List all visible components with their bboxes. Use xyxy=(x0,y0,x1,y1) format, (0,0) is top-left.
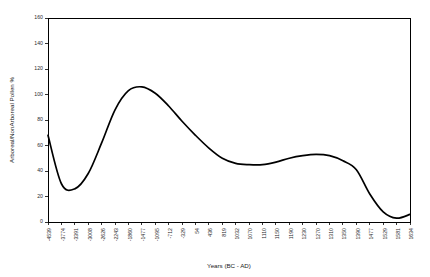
y-axis-tick-label: 0 xyxy=(40,218,43,224)
x-axis-tick-label: -2626 xyxy=(100,228,106,241)
x-axis-tick-label: -1477 xyxy=(140,228,146,241)
x-axis-tick-label: -3391 xyxy=(73,228,79,241)
x-axis-tick-label: 1110 xyxy=(261,228,267,239)
x-axis-tick-label: 1190 xyxy=(288,228,294,239)
y-axis-tick-label: 100 xyxy=(34,91,43,97)
y-axis-tick-label: 60 xyxy=(37,142,43,148)
x-axis-tick-label: 1070 xyxy=(247,228,253,240)
x-axis-tick-label: -712 xyxy=(167,228,173,238)
y-axis-tick-label: 40 xyxy=(37,167,43,173)
y-axis-tick-label: 20 xyxy=(37,193,43,199)
x-axis-tick-label: 54 xyxy=(194,228,200,234)
y-axis-tick-label: 160 xyxy=(34,14,43,20)
x-axis-tick-label: 1581 xyxy=(395,228,401,240)
x-axis-tick-label: 436 xyxy=(207,228,213,237)
chart-canvas: 020406080100120140160 -4539-3774-3391-30… xyxy=(0,0,430,277)
x-axis-tick-label: 1270 xyxy=(315,228,321,240)
x-axis-tick-label: 1477 xyxy=(368,228,374,240)
plot-frame xyxy=(48,18,410,222)
x-axis-tick-label: -1860 xyxy=(127,228,133,241)
x-axis-tick-label: -3774 xyxy=(60,228,66,241)
x-axis-tick-label: -329 xyxy=(180,228,186,238)
y-axis-tick-label: 80 xyxy=(37,116,43,122)
x-axis-tick-label: -3008 xyxy=(87,228,93,241)
x-axis-tick-label: 1390 xyxy=(355,228,361,240)
series-line-pollen xyxy=(48,87,410,218)
y-axis-tick-label: 120 xyxy=(34,65,43,71)
y-axis-title: Arboreal/NonArboreal Pollen % xyxy=(8,77,15,163)
pollen-line-chart: 020406080100120140160 -4539-3774-3391-30… xyxy=(0,0,430,277)
x-axis-tick-label: 1310 xyxy=(328,228,334,240)
x-axis-title: Years (BC - AD) xyxy=(207,262,251,269)
x-axis-tick-label: 1634 xyxy=(408,228,414,240)
x-axis-tick-label: 1350 xyxy=(341,228,347,240)
x-axis-tick-label: -4539 xyxy=(46,228,52,241)
x-axis-tick-label: -1095 xyxy=(154,228,160,241)
x-axis-tick-label: -2243 xyxy=(113,228,119,241)
x-axis-tick-label: 1032 xyxy=(234,228,240,240)
y-axis-tick-group: 020406080100120140160 xyxy=(34,14,48,224)
x-axis-tick-label: 1230 xyxy=(301,228,307,240)
series-group xyxy=(48,87,410,218)
x-axis-tick-label: 1150 xyxy=(274,228,280,239)
x-axis-tick-label: 1529 xyxy=(382,228,388,240)
y-axis-tick-label: 140 xyxy=(34,40,43,46)
x-axis-tick-group: -4539-3774-3391-3008-2626-2243-1860-1477… xyxy=(46,222,414,241)
x-axis-tick-label: 819 xyxy=(221,228,227,237)
